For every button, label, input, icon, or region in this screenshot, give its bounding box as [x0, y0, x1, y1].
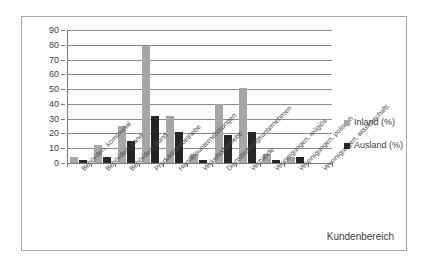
- y-axis-tick-mark: [61, 60, 65, 61]
- y-axis-tick-mark: [61, 89, 65, 90]
- y-axis: 9080706050403020100: [22, 30, 65, 163]
- legend-item: Inland (%): [344, 118, 406, 127]
- y-axis-tick-label: 50: [49, 85, 59, 94]
- chart-legend: Inland (%)Ausland (%): [344, 118, 406, 164]
- legend-swatch-icon: [344, 143, 350, 149]
- y-axis-tick-mark: [61, 74, 65, 75]
- y-axis-tick-label: 10: [49, 144, 59, 153]
- bar-group: [68, 30, 92, 163]
- y-axis-tick-mark: [61, 163, 65, 164]
- y-axis-tick-mark: [61, 30, 65, 31]
- y-axis-tick-label: 60: [49, 70, 59, 79]
- y-axis-tick-mark: [61, 133, 65, 134]
- y-axis-tick-label: 30: [49, 114, 59, 123]
- chart-frame: 9080706050403020100 Behörden, kommunalBe…: [21, 16, 407, 251]
- y-axis-tick-mark: [61, 104, 65, 105]
- y-axis-tick-label: 40: [49, 99, 59, 108]
- y-axis-tick-label: 70: [49, 55, 59, 64]
- legend-swatch-icon: [344, 120, 350, 126]
- y-axis-tick-label: 80: [49, 40, 59, 49]
- y-axis-tick-label: 20: [49, 129, 59, 138]
- y-axis-tick-label: 0: [54, 159, 59, 168]
- y-axis-tick-mark: [61, 119, 65, 120]
- legend-item: Ausland (%): [344, 141, 406, 150]
- x-axis-labels: Behörden, kommunalBehörden, LandBehörden…: [67, 167, 367, 247]
- x-axis-title: Kundenbereich: [327, 231, 394, 242]
- y-axis-tick-label: 90: [49, 26, 59, 35]
- legend-label: Inland (%): [354, 118, 395, 127]
- bar-group: [261, 30, 285, 163]
- y-axis-tick-mark: [61, 148, 65, 149]
- y-axis-tick-mark: [61, 45, 65, 46]
- legend-label: Ausland (%): [354, 141, 403, 150]
